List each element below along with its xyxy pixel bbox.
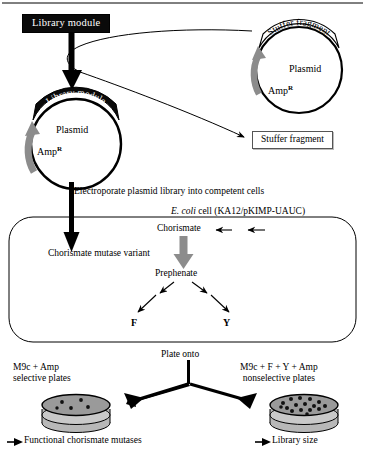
left-plate-line1: M9c + Amp: [13, 362, 71, 373]
library-module-box: Library module: [22, 14, 110, 33]
right-plate-caption: M9c + F + Y + Amp nonselective plates: [240, 362, 318, 383]
plate-onto-label: Plate onto: [161, 349, 199, 360]
right-result-label: Library size: [272, 435, 318, 446]
diagram-canvas: Stuffer fragment Plasmid AmpR Library mo…: [0, 0, 365, 459]
ampr-superscript: R: [57, 145, 62, 153]
library-plasmid-ampr-label: AmpR: [37, 146, 62, 158]
electroporate-label: Electroporate plasmid library into compe…: [74, 186, 264, 197]
left-petri-dish: [35, 389, 117, 437]
ampr-superscript: R: [288, 84, 293, 92]
right-result-arrow: [254, 436, 272, 448]
ampr-text: Amp: [37, 146, 57, 157]
ampr-text: Amp: [268, 85, 288, 96]
left-result-arrow: [6, 436, 24, 448]
prephenate-label: Prephenate: [155, 268, 197, 279]
left-plate-caption: M9c + Amp selective plates: [13, 362, 71, 383]
right-plate-line2: nonselective plates: [240, 373, 318, 384]
stuffer-fragment-box: Stuffer fragment: [252, 131, 333, 149]
left-plate-line2: selective plates: [13, 373, 71, 384]
chorismate-label: Chorismate: [157, 223, 201, 234]
right-plate-line1: M9c + F + Y + Amp: [240, 362, 318, 373]
product-y-label: Y: [223, 317, 230, 328]
ecoli-italic-text: E. coli: [171, 206, 196, 216]
mutase-conversion-gray-arrow: [172, 236, 196, 270]
chorismate-feeder-arrows: [210, 222, 272, 240]
prephenate-branch-arrows: [118, 280, 248, 322]
stuffer-plasmid-center-label: Plasmid: [289, 63, 321, 74]
left-result-label: Functional chorismate mutases: [24, 435, 142, 446]
right-petri-dish: [263, 389, 345, 437]
product-f-label: F: [131, 317, 137, 328]
chorismate-mutase-variant-label: Chorismate mutase variant: [48, 248, 150, 259]
ecoli-rest-text: cell (KA12/pKIMP-UAUC): [196, 206, 305, 216]
library-band-text: Library module: [44, 87, 108, 106]
stuffer-plasmid-ampr-label: AmpR: [268, 85, 293, 97]
library-plasmid-center-label: Plasmid: [56, 124, 88, 135]
